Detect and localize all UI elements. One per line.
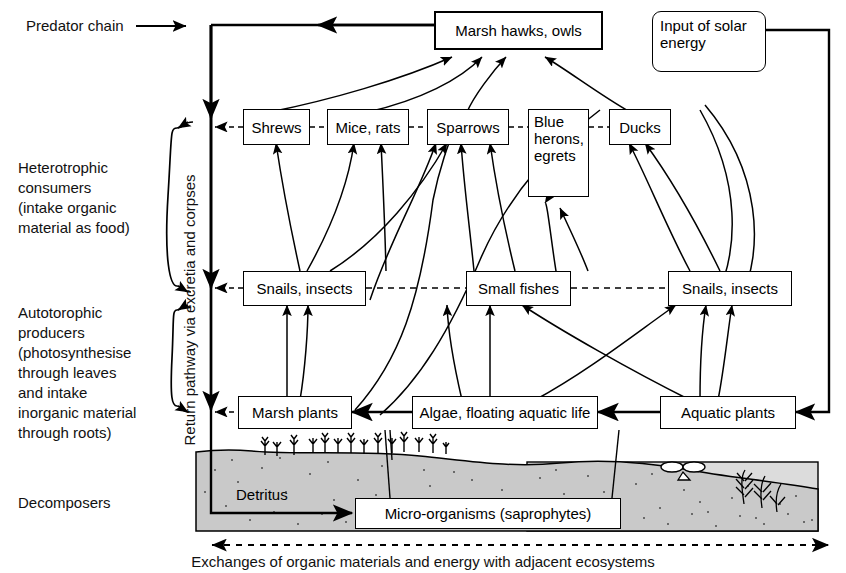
label-detritus: Detritus — [236, 486, 288, 503]
label-return-pathway: Return pathway via excretia and corpses — [180, 114, 200, 506]
label-predator-chain: Predator chain — [26, 16, 124, 36]
node-mice-rats[interactable]: Mice, rats — [327, 109, 409, 145]
label-bottom-exchange: Exchanges of organic materials and energ… — [0, 553, 846, 570]
node-ducks[interactable]: Ducks — [609, 109, 671, 145]
arrows-middle-to-consumers — [276, 143, 720, 271]
arrows-producers-to-middle — [287, 305, 732, 400]
node-blue-herons-egrets[interactable]: Blue herons, egrets — [528, 109, 589, 197]
arrows-to-top-predator — [270, 57, 630, 112]
node-algae-floating-aquatic-life[interactable]: Algae, floating aquatic life — [412, 396, 598, 429]
node-marsh-plants[interactable]: Marsh plants — [238, 396, 352, 429]
node-snails-insects-left[interactable]: Snails, insects — [243, 271, 366, 306]
node-sparrows[interactable]: Sparrows — [427, 109, 509, 145]
ecosystem-diagram: Predator chain Heterotrophic consumers (… — [0, 0, 846, 573]
node-micro-organisms[interactable]: Micro-organisms (saprophytes) — [355, 498, 621, 529]
node-input-of-solar-energy[interactable]: Input of solar energy — [652, 11, 766, 72]
return-pathway-ticks — [215, 127, 243, 412]
label-heterotrophic-consumers: Heterotrophic consumers (intake organic … — [18, 158, 168, 238]
node-shrews[interactable]: Shrews — [243, 109, 310, 145]
node-small-fishes[interactable]: Small fishes — [466, 271, 571, 306]
label-decomposers: Decomposers — [18, 493, 111, 513]
node-marsh-hawks-owls[interactable]: Marsh hawks, owls — [434, 11, 603, 50]
solar-energy-route — [766, 30, 829, 412]
label-autotrophic-producers: Autotorophic producers (photosynthesise … — [18, 303, 176, 443]
node-aquatic-plants[interactable]: Aquatic plants — [660, 396, 796, 429]
node-snails-insects-right[interactable]: Snails, insects — [668, 271, 792, 306]
